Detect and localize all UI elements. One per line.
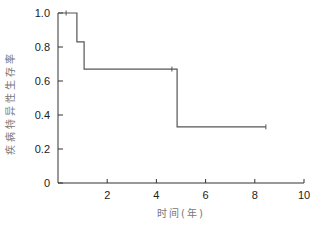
y-tick-label: 1.0 [35, 7, 50, 19]
axis-ticks: 24681000.20.40.60.81.0 [35, 7, 310, 201]
x-axis-title: 时间(年) [157, 207, 205, 219]
x-tick-label: 6 [203, 189, 209, 201]
km-step-line [58, 13, 266, 127]
y-axis-title: 疾病特异性生存率 [4, 51, 16, 155]
x-tick-label: 4 [153, 189, 159, 201]
x-tick-label: 10 [298, 189, 310, 201]
axes [58, 13, 304, 183]
x-tick-label: 2 [104, 189, 110, 201]
survival-curve [58, 13, 266, 127]
x-tick-label: 8 [252, 189, 258, 201]
y-tick-label: 0 [44, 177, 50, 189]
y-tick-label: 0.8 [35, 41, 50, 53]
y-tick-label: 0.4 [35, 109, 50, 121]
y-tick-label: 0.6 [35, 75, 50, 87]
y-tick-label: 0.2 [35, 143, 50, 155]
censor-marks [66, 11, 266, 130]
survival-chart: 24681000.20.40.60.81.0 时间(年) 疾病特异性生存率 [0, 0, 326, 228]
